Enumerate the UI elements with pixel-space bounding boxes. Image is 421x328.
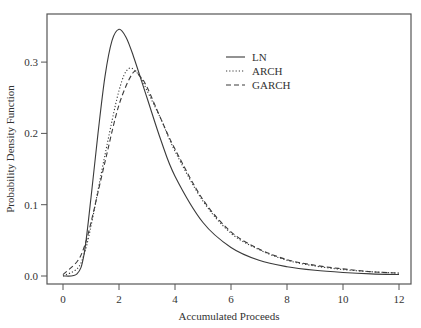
y-axis-label: Probability Density Function (4, 85, 16, 213)
x-tick-label: 10 (338, 293, 350, 305)
legend: LNARCHGARCH (226, 51, 291, 91)
series-arch-line (63, 68, 399, 276)
plot-frame (47, 14, 411, 284)
x-tick-label: 4 (172, 293, 178, 305)
series-garch-line (63, 71, 399, 275)
series-group (63, 29, 399, 276)
x-tick-label: 12 (394, 293, 405, 305)
y-tick-label: 0.1 (24, 199, 38, 211)
y-axis: 0.00.10.20.3 (24, 56, 47, 282)
x-tick-label: 0 (60, 293, 66, 305)
legend-ln-label: LN (252, 51, 267, 63)
series-ln-line (63, 29, 399, 276)
y-tick-label: 0.2 (24, 127, 38, 139)
x-tick-label: 8 (284, 293, 290, 305)
x-tick-label: 2 (116, 293, 122, 305)
legend-arch-label: ARCH (252, 65, 283, 77)
y-tick-label: 0.0 (24, 270, 38, 282)
legend-garch-label: GARCH (252, 79, 291, 91)
x-tick-label: 6 (228, 293, 234, 305)
x-axis: 024681012 (60, 284, 404, 305)
x-axis-label: Accumulated Proceeds (178, 310, 279, 322)
y-tick-label: 0.3 (24, 56, 38, 68)
pdf-chart: 0.00.10.20.3 024681012 LNARCHGARCH Accum… (0, 0, 421, 328)
